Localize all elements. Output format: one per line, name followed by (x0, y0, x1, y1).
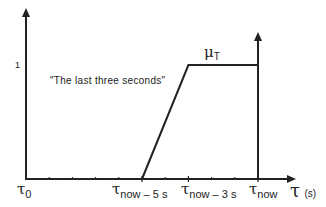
tau-subscript: now – 5 s (120, 188, 167, 200)
y-tick-label-1: 1 (15, 60, 20, 70)
x-tick-label-tau0: τ0 (17, 180, 31, 198)
tau-subscript: now (257, 188, 277, 200)
tau-subscript: 0 (25, 188, 31, 200)
x-tick-label-now: τnow (249, 180, 278, 198)
annotation-last-three-seconds: "The last three seconds" (50, 75, 165, 86)
y-axis-arrowhead (22, 8, 30, 17)
series-label-sub: T (214, 51, 220, 62)
x-tick-label-now-minus-5s: τnow – 5 s (112, 180, 167, 198)
series-label-main: μ (204, 43, 214, 61)
now-line-arrowhead (254, 32, 262, 41)
x-tick-label-now-minus-3s: τnow – 3 s (181, 180, 236, 198)
x-axis-label: τ (s) (290, 180, 316, 201)
membership-plot (0, 0, 326, 207)
x-axis-unit: (s) (304, 188, 316, 199)
tau-subscript: now – 3 s (189, 188, 236, 200)
x-axis-tau-symbol: τ (290, 180, 300, 201)
series-label-mu-t: μT (204, 43, 220, 61)
